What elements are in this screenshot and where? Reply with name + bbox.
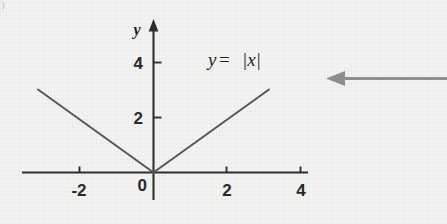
y-tick-label-4: 4 [134, 54, 144, 73]
absolute-value-graph: y -2 2 4 2 4 0 y = |x| [0, 0, 447, 224]
y-axis-label: y [131, 21, 141, 39]
y-axis-arrowhead-icon [149, 19, 159, 32]
equation-lhs: y [206, 49, 217, 70]
x-tick-label-2: 2 [222, 181, 231, 200]
x-tick-label-4: 4 [296, 181, 306, 200]
curve-right-branch [154, 90, 270, 173]
figure-page: ) y -2 2 4 2 4 0 [0, 0, 447, 224]
x-tick-label--2: -2 [71, 181, 86, 200]
origin-label: 0 [138, 176, 147, 195]
y-axis-ticks [154, 63, 162, 118]
equation-equals-sign: = [219, 49, 230, 70]
callout-arrow-icon [326, 71, 447, 86]
equation-rhs: |x| [242, 49, 261, 70]
y-tick-label-2: 2 [134, 109, 143, 128]
callout-arrow-head [326, 71, 345, 86]
curve-left-branch [38, 90, 154, 173]
equation-annotation: y = |x| [206, 49, 261, 70]
